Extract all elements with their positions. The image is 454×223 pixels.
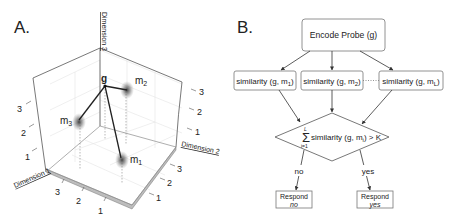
dim3-left-ticks bbox=[26, 101, 37, 151]
decision-text: similarity (g, mi) > K bbox=[311, 133, 382, 143]
dimension-2-label: Dimension 2 bbox=[181, 140, 221, 155]
dim3-left-tick-1: 1 bbox=[25, 152, 30, 162]
panel-b-flowchart: B. Encode Probe (g) similarity (g, m1) s… bbox=[234, 18, 443, 209]
dim3-left-tick-2: 2 bbox=[21, 128, 26, 138]
sum-lower-limit: i=1 bbox=[301, 143, 308, 149]
similarity-vectors bbox=[79, 86, 127, 158]
yes-branch-label: yes bbox=[362, 167, 374, 176]
sum-upper-limit: L bbox=[304, 126, 307, 132]
dim1-tick-2: 2 bbox=[76, 196, 81, 206]
m3-cluster bbox=[72, 113, 86, 131]
panel-a-3d-plot: A. bbox=[13, 12, 221, 216]
m2-label: m2 bbox=[135, 75, 147, 87]
probe-point bbox=[103, 84, 106, 87]
similarity-text-2: similarity (g, m2) bbox=[303, 77, 361, 87]
dimension-1-label: Dimension 1 bbox=[13, 167, 51, 189]
floor-edge-left bbox=[46, 126, 100, 172]
dim2-tick-2: 2 bbox=[167, 178, 172, 188]
m1-label: m1 bbox=[130, 154, 142, 166]
dimension-3-label: Dimension 3 bbox=[101, 12, 108, 51]
probe-label: g bbox=[101, 73, 107, 84]
dim3-left-tick-3: 3 bbox=[17, 104, 22, 114]
right-wall-edge bbox=[176, 82, 182, 147]
m3-label: m3 bbox=[60, 115, 72, 127]
dim3-right-ticks bbox=[187, 89, 196, 130]
dim3-right-tick-1: 1 bbox=[195, 127, 200, 137]
left-wall-edge bbox=[33, 78, 46, 172]
dim2-tick-1: 1 bbox=[156, 193, 161, 203]
encode-probe-text: Encode Probe (g) bbox=[310, 30, 377, 40]
panel-a-label: A. bbox=[14, 18, 30, 37]
dim3-right-tick-3: 3 bbox=[199, 87, 204, 97]
encode-arrows bbox=[281, 51, 393, 70]
figure: A. bbox=[0, 0, 454, 223]
respond-yes-line2: yes bbox=[369, 201, 381, 209]
dim1-tick-3: 3 bbox=[55, 187, 60, 197]
dim1-ticks bbox=[62, 179, 106, 201]
respond-no-line2: no bbox=[290, 201, 298, 208]
dim3-right-tick-2: 2 bbox=[197, 107, 202, 117]
m1-cluster bbox=[115, 151, 129, 169]
no-branch-label: no bbox=[295, 167, 304, 176]
dim2-tick-3: 3 bbox=[177, 164, 182, 174]
similarity-text-L: similarity (g, mL) bbox=[382, 77, 440, 87]
dim1-tick-1: 1 bbox=[98, 206, 103, 216]
floor-edge-right bbox=[100, 126, 176, 147]
panel-b-label: B. bbox=[237, 18, 253, 37]
similarity-text-1: similarity (g, m1) bbox=[236, 77, 294, 87]
